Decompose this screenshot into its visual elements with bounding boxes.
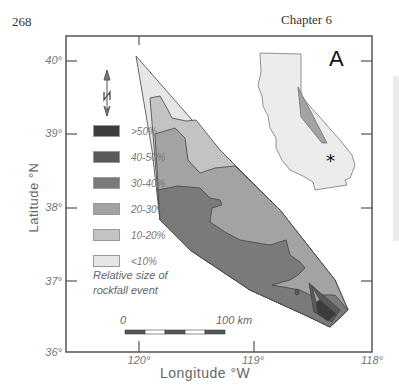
legend-swatch [93, 177, 120, 189]
legend-label: 40-50% [131, 152, 165, 163]
legend-item: >50% [93, 124, 157, 138]
scale-bar [125, 330, 225, 334]
legend-title: Relative size of rockfall event [93, 268, 168, 298]
scale-bar-start: 0 [120, 314, 126, 326]
page-edge-strip [393, 76, 399, 241]
california-inset: * [258, 53, 355, 190]
legend-item: 10-20% [93, 228, 165, 242]
legend-swatch [93, 255, 120, 267]
scale-bar-end: 100 km [216, 314, 252, 326]
rockfall-zones [136, 56, 348, 327]
north-arrow-icon [104, 70, 110, 116]
legend-title-line2: rockfall event [93, 283, 168, 298]
legend-title-line1: Relative size of [93, 268, 168, 283]
legend-swatch [93, 125, 120, 137]
legend-label: 30-40% [131, 178, 165, 189]
legend-item: <10% [93, 254, 157, 268]
legend-item: 20-30% [93, 202, 165, 216]
asterisk-marker: * [326, 150, 335, 171]
legend-swatch [93, 203, 120, 215]
legend-swatch [93, 151, 120, 163]
legend-item: 40-50% [93, 150, 165, 164]
legend-item: 30-40% [93, 176, 165, 190]
legend-label: 10-20% [131, 230, 165, 241]
legend-label: 20-30% [131, 204, 165, 215]
legend-swatch [93, 229, 120, 241]
legend-label: <10% [131, 256, 157, 267]
legend-label: >50% [131, 126, 157, 137]
panel-label: A [329, 46, 344, 72]
zone-40-50-spot [295, 289, 299, 295]
